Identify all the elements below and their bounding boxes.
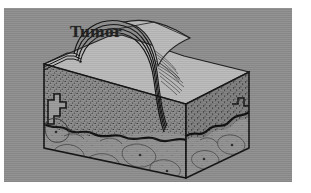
skin-block-illustration (4, 8, 292, 182)
label-tumor: Tumor (70, 22, 122, 42)
scanned-plate: Tumor (4, 8, 292, 182)
figure-root: Tumor (0, 0, 311, 193)
